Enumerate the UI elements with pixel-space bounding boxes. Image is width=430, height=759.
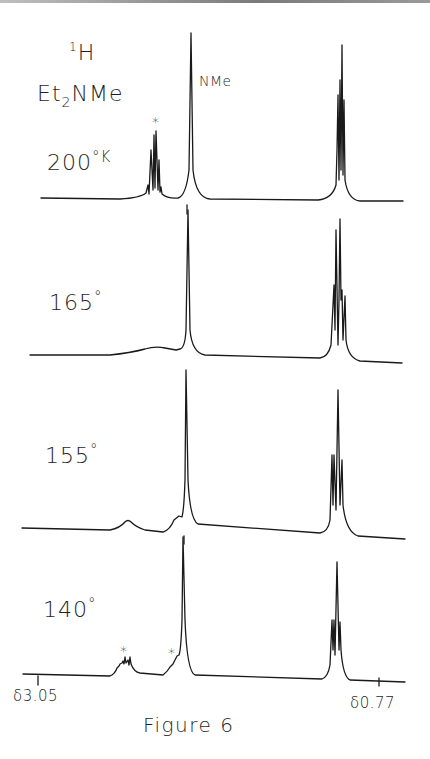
nucleus-symbol: H (78, 40, 96, 65)
temp-label-155: 155° (45, 443, 99, 468)
star-annotation: * (168, 645, 176, 661)
temp-label-165: 165° (49, 290, 103, 315)
spectrum-200K (41, 33, 403, 201)
nme-peak-label: NMe (199, 73, 232, 89)
star-annotation: * (120, 643, 128, 659)
temp-value: 155 (45, 443, 90, 468)
axis-label-right: δ0.77 (350, 694, 395, 712)
temp-unit: ° (94, 288, 103, 306)
spectrum-165 (30, 210, 402, 363)
nmr-spectra-plot (0, 0, 430, 759)
compound-label: Et2NMe (37, 81, 123, 106)
temp-value: 165 (49, 290, 94, 315)
nucleus-label: 1H (69, 40, 95, 65)
temp-label-200K: 200°K (47, 150, 111, 175)
temp-unit: °K (92, 148, 111, 166)
compound-subscript: 2 (62, 94, 72, 110)
nucleus-mass: 1 (69, 40, 78, 54)
temp-value: 140 (43, 597, 88, 622)
temp-unit: ° (88, 595, 97, 613)
temp-value: 200 (47, 150, 92, 175)
compound-suffix: NMe (71, 81, 123, 106)
axis-label-left: δ3.05 (13, 687, 58, 705)
compound-prefix: Et (37, 81, 62, 106)
temp-label-140: 140° (43, 597, 97, 622)
figure-caption: Figure 6 (143, 713, 234, 737)
star-annotation: * (152, 114, 160, 130)
temp-unit: ° (90, 441, 99, 459)
